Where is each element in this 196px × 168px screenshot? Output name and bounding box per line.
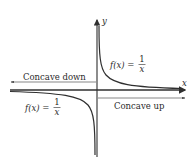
svg-text:1: 1 <box>139 54 144 64</box>
svg-text:f(x) =: f(x) = <box>109 60 134 70</box>
concavity-diagram: x y Concave down Concave up f(x) = 1 x <box>0 0 196 168</box>
svg-text:x: x <box>140 64 145 74</box>
curve-negative-branch <box>10 92 95 156</box>
concave-down-label: Concave down <box>23 72 86 82</box>
function-label-lower: f(x) = 1 x <box>24 97 61 117</box>
svg-text:1: 1 <box>54 97 59 107</box>
concave-up-label: Concave up <box>114 101 165 111</box>
x-axis-label: x <box>182 78 187 88</box>
y-axis-label: y <box>101 16 107 26</box>
svg-text:f(x) =: f(x) = <box>24 103 49 113</box>
svg-text:x: x <box>55 107 60 117</box>
function-label-upper: f(x) = 1 x <box>109 54 146 74</box>
